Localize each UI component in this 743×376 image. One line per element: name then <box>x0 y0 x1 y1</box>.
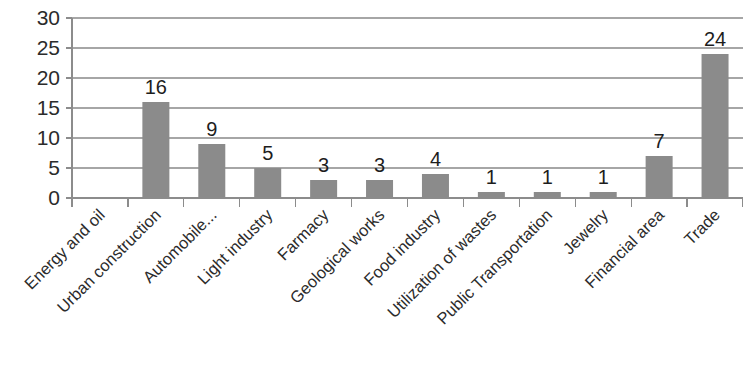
bar <box>534 192 561 198</box>
y-axis-tick-label: 0 <box>48 186 60 209</box>
x-axis-category-label: Urban construction <box>53 205 164 316</box>
y-axis-tick-label: 20 <box>37 66 60 89</box>
bar <box>198 144 225 198</box>
x-axis-category-label: Public Transportation <box>433 205 555 327</box>
y-axis-tick-label: 15 <box>37 96 60 119</box>
bar <box>590 192 617 198</box>
y-axis-tick-label: 25 <box>37 36 60 59</box>
bar-value-label: 16 <box>145 76 167 98</box>
bar-chart: 051015202530 1695334111724 Energy and oi… <box>0 0 743 376</box>
x-axis-ticks <box>72 198 743 207</box>
x-axis-category-label: Farmacy <box>274 205 333 264</box>
x-axis-category-label: Geological works <box>286 205 388 307</box>
bar-value-label: 7 <box>654 130 665 152</box>
y-axis-tick-labels: 051015202530 <box>37 6 60 209</box>
bar-value-label: 5 <box>262 142 273 164</box>
bar-value-label: 1 <box>486 166 497 188</box>
x-axis-category-label: Trade <box>680 205 723 248</box>
bar <box>478 192 505 198</box>
bar-value-label: 4 <box>430 148 441 170</box>
bar <box>702 54 729 198</box>
bar <box>422 174 449 198</box>
x-axis-category-label: Jewelry <box>559 205 612 258</box>
y-axis-tick-label: 30 <box>37 6 60 29</box>
bar <box>646 156 673 198</box>
bars <box>142 54 728 198</box>
y-axis-tick-label: 5 <box>48 156 60 179</box>
bar-value-label: 3 <box>318 154 329 176</box>
bar-value-label: 1 <box>598 166 609 188</box>
chart-canvas: 051015202530 1695334111724 Energy and oi… <box>0 0 743 376</box>
x-axis-category-label: Utilization of wastes <box>384 205 500 321</box>
y-axis-tick-label: 10 <box>37 126 60 149</box>
bar-value-label: 3 <box>374 154 385 176</box>
bar <box>366 180 393 198</box>
bar <box>254 168 281 198</box>
bar <box>310 180 337 198</box>
x-axis-category-labels: Energy and oilUrban constructionAutomobi… <box>21 205 723 328</box>
bar-value-label: 24 <box>704 28 726 50</box>
bar-value-label: 1 <box>542 166 553 188</box>
bar-value-label: 9 <box>206 118 217 140</box>
bar <box>142 102 169 198</box>
